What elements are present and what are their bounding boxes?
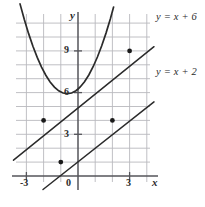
intersection-point	[58, 160, 63, 165]
y-tick-label-6: 6	[64, 87, 69, 97]
line-label-y-equals-x-plus-6: y = x + 6	[156, 12, 197, 23]
coordinate-plane	[0, 0, 205, 207]
x-tick-label-0: 0	[66, 178, 71, 188]
vertical-gridlines	[26, 14, 146, 182]
line-y-equals-x-plus-6	[14, 47, 155, 161]
intersection-point	[41, 118, 46, 123]
y-axis-label: y	[70, 10, 75, 21]
line-label-y-equals-x-plus-2: y = x + 2	[156, 67, 197, 78]
x-axis-label: x	[152, 177, 158, 188]
axis-lines	[12, 12, 158, 190]
graph-figure: y x -3 0 3 3 6 9 y = x + 6 y = x + 2	[0, 0, 205, 207]
intersection-point	[127, 49, 132, 54]
intersection-point	[110, 118, 115, 123]
y-tick-label-3: 3	[64, 129, 69, 139]
y-tick-label-9: 9	[64, 45, 69, 55]
x-tick-label-3: 3	[126, 178, 131, 188]
x-tick-label-neg3: -3	[20, 178, 28, 188]
